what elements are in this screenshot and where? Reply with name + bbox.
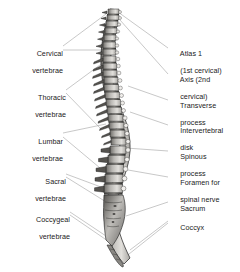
cervical-vertebrae-group [96, 9, 122, 55]
label-line2: vertebrae [32, 154, 63, 163]
label-line1: Sacral [45, 177, 66, 186]
spine-anatomy-diagram: Cervical vertebrae Thoracic vertebrae Lu… [0, 0, 240, 272]
label-lumbar-vertebrae: Lumbar vertebrae [4, 130, 63, 172]
label-line1: Cervical [37, 49, 63, 58]
label-thoracic-vertebrae: Thoracic vertebrae [4, 86, 66, 128]
label-line1: Thoracic [38, 93, 66, 102]
label-line1: Coccyx [180, 223, 204, 232]
vertebral-column [93, 9, 131, 267]
thoracic-vertebrae-group [93, 56, 131, 145]
label-line1: Atlas 1 [180, 49, 202, 58]
lumbar-vertebrae-group [95, 146, 131, 195]
label-line2: vertebrae [35, 194, 66, 203]
label-line2: vertebrae [32, 66, 63, 75]
label-line1: Axis (2nd [180, 75, 210, 84]
label-line1: Coccygeal [36, 215, 70, 224]
label-coccygeal-vertebrae: Coccygeal vertebrae [2, 208, 70, 250]
label-line1: Foramen for [180, 178, 220, 187]
label-line2: vertebrae [35, 110, 66, 119]
label-sacral-vertebrae: Sacral vertebrae [4, 170, 66, 212]
label-line1: Spinous [180, 152, 206, 161]
label-cervical-vertebrae: Cervical vertebrae [4, 42, 63, 84]
label-line2: vertebrae [39, 232, 70, 241]
label-line1: Lumbar [38, 137, 63, 146]
label-coccyx: Coccyx [172, 216, 238, 241]
label-line1: Intervertebral [180, 126, 223, 135]
label-line1: Transverse [180, 101, 216, 110]
label-line1: Sacrum [180, 204, 205, 213]
sacrum-group [104, 195, 126, 246]
